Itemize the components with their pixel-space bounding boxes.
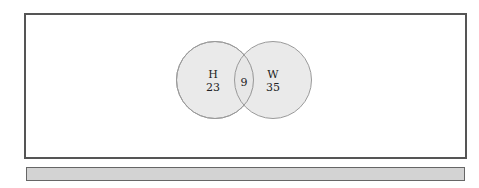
set-h-label: H <box>198 68 228 81</box>
scrollbar-track[interactable] <box>26 167 465 181</box>
venn-diagram <box>0 0 479 188</box>
set-w-label: W <box>258 68 288 81</box>
set-w-count: 35 <box>258 81 288 94</box>
set-h-count: 23 <box>198 81 228 94</box>
intersection-count: 9 <box>229 76 259 89</box>
